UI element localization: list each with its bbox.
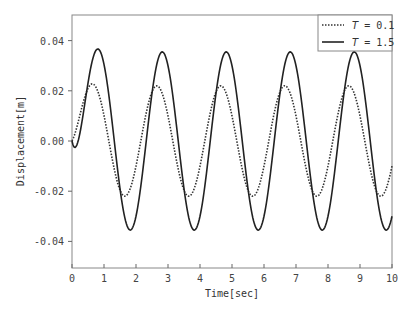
displacement-chart: 0.040.020.00-0.02-0.04 012345678910 Time… (0, 0, 412, 313)
x-tick-label: 3 (165, 273, 171, 284)
y-tick-label: 0.04 (40, 36, 64, 47)
y-tick-label: 0.00 (40, 136, 64, 147)
x-tick-label: 0 (69, 273, 75, 284)
x-tick-label: 5 (229, 273, 235, 284)
series-t-1.5-line (72, 49, 392, 230)
x-tick-label: 2 (133, 273, 139, 284)
x-tick-label: 4 (197, 273, 203, 284)
legend-label-1: T = 1.5 (352, 37, 394, 48)
legend: T = 0.1 T = 1.5 (318, 15, 394, 51)
x-tick-label: 8 (325, 273, 331, 284)
x-tick-label: 10 (386, 273, 398, 284)
legend-label-0: T = 0.1 (352, 20, 394, 31)
x-axis-ticks: 012345678910 (69, 264, 398, 284)
y-tick-label: -0.02 (34, 186, 64, 197)
y-tick-label: 0.02 (40, 86, 64, 97)
series-t-0.1-line (72, 84, 392, 196)
x-tick-label: 9 (357, 273, 363, 284)
x-axis-label: Time[sec] (205, 288, 259, 299)
plot-frame (72, 15, 392, 268)
x-tick-label: 7 (293, 273, 299, 284)
x-tick-label: 1 (101, 273, 107, 284)
y-axis-label: Displacement[m] (15, 96, 26, 186)
y-axis-ticks: 0.040.020.00-0.02-0.04 (34, 36, 72, 248)
x-tick-label: 6 (261, 273, 267, 284)
y-tick-label: -0.04 (34, 236, 64, 247)
